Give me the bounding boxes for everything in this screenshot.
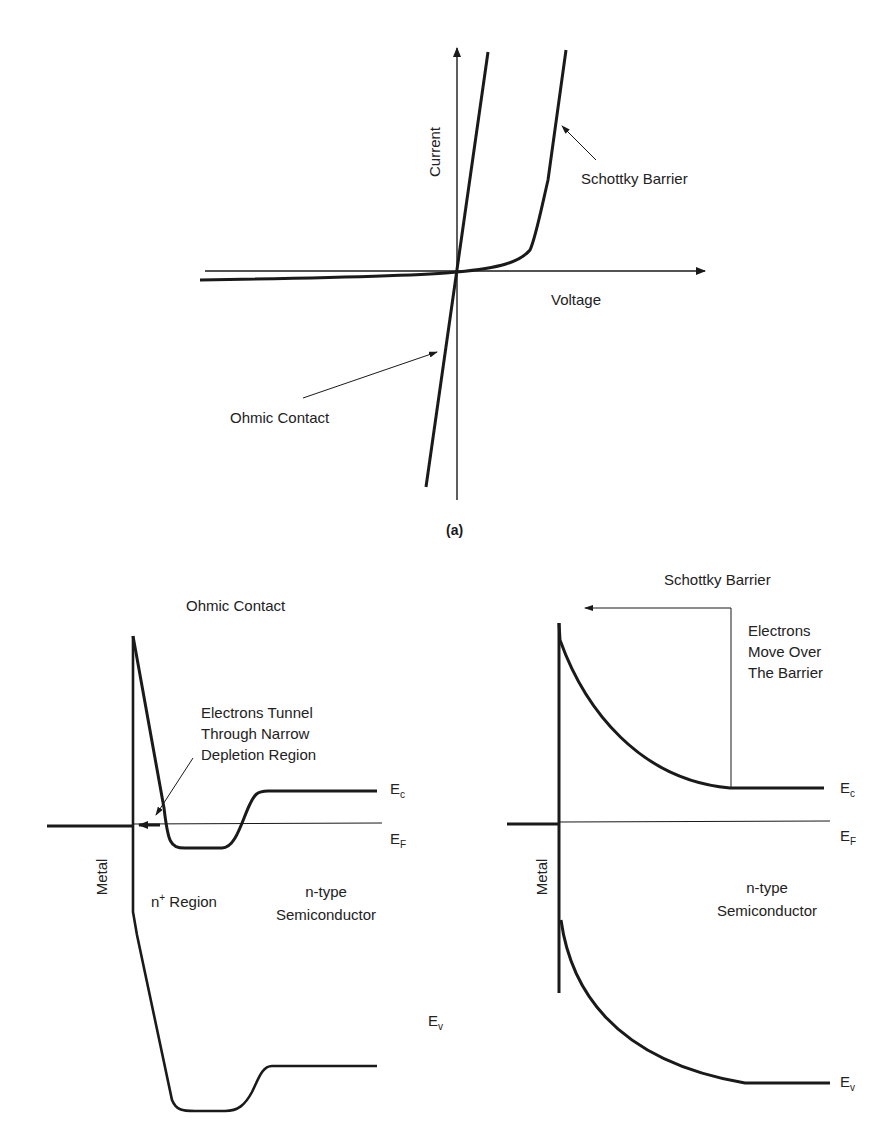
part-a-caption: (a) [446, 522, 463, 538]
n-plus-sup: + [159, 892, 165, 903]
ohmic-ef-label: EF [390, 830, 406, 854]
ohmic-fermi-level [133, 823, 382, 824]
schottky-semiconductor-label: n-type Semiconductor [717, 876, 817, 922]
ohmic-ec-label: Ec [390, 780, 405, 804]
over-barrier-path [585, 608, 731, 788]
tunnel-annotation: Electrons Tunnel Through Narrow Depletio… [201, 702, 316, 765]
schottky-ev-label: Ev [840, 1073, 855, 1097]
schottky-band-title: Schottky Barrier [664, 571, 771, 589]
schottky-pointer [562, 126, 596, 160]
figure-page: Current Voltage Schottky Barrier Ohmic C… [0, 0, 890, 1130]
region-word: Region [169, 893, 217, 910]
figure-drawing [0, 0, 890, 1130]
schottky-metal-label: Metal [533, 857, 551, 897]
schottky-curve [200, 50, 566, 280]
ohmic-band-title: Ohmic Contact [186, 597, 285, 615]
voltage-axis-label: Voltage [551, 291, 601, 309]
schottky-ec-label: Ec [840, 779, 855, 803]
ohmic-pointer [303, 352, 437, 398]
iv-chart [200, 48, 705, 500]
ohmic-metal-label: Metal [93, 857, 111, 897]
ohmic-ev-label: Ev [428, 1012, 443, 1036]
ohmic-annotation-label: Ohmic Contact [230, 409, 329, 427]
schottky-valence-band [561, 920, 830, 1083]
ohmic-semiconductor-label: n-type Semiconductor [276, 880, 376, 926]
over-barrier-annotation: Electrons Move Over The Barrier [748, 620, 823, 683]
schottky-annotation-label: Schottky Barrier [581, 170, 688, 188]
schottky-fermi-level [559, 821, 830, 822]
current-axis-label: Current [426, 122, 444, 182]
schottky-ef-label: EF [840, 827, 856, 851]
n-plus-region-label: n+ Region [151, 889, 217, 911]
